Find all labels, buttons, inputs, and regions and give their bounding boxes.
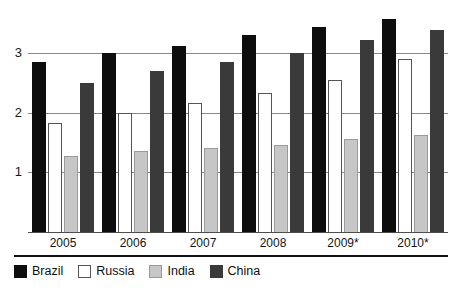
x-tick-label-2005: 2005 [28,236,98,250]
bar-russia-2009 [328,80,342,232]
bar-russia-2007 [188,103,202,232]
plot-area [28,8,448,232]
y-tick-label-3: 3 [0,46,22,59]
bar-india-2007 [204,148,218,232]
bar-china-2005 [80,83,94,232]
bar-india-2010 [414,135,428,232]
x-tick-label-2007: 2007 [168,236,238,250]
legend-swatch-russia-icon [78,265,91,278]
bar-china-2007 [220,62,234,232]
bar-russia-2008 [258,93,272,232]
y-tick-label-2: 2 [0,106,22,119]
bar-chart: 123 20052006200720082009*2010* BrazilRus… [0,0,466,292]
bar-group [308,8,378,232]
bar-china-2010 [430,30,444,232]
bar-group [238,8,308,232]
bar-groups [28,8,448,232]
legend-separator [14,255,448,257]
legend-item-india[interactable]: India [149,264,194,278]
bar-india-2009 [344,139,358,232]
bar-china-2009 [360,40,374,232]
x-tick-label-2008: 2008 [238,236,308,250]
bar-group [28,8,98,232]
bar-group [168,8,238,232]
y-axis: 123 [0,8,28,232]
bar-brazil-2005 [32,62,46,232]
bar-russia-2006 [118,113,132,232]
legend-label-china: China [228,264,261,278]
chart-legend: BrazilRussiaIndiaChina [14,264,268,278]
bar-group [98,8,168,232]
bar-russia-2010 [398,59,412,232]
legend-item-brazil[interactable]: Brazil [14,264,63,278]
x-tick-label-2009: 2009* [308,236,378,250]
bar-india-2008 [274,145,288,232]
bar-group [378,8,448,232]
bar-china-2008 [290,53,304,232]
legend-item-russia[interactable]: Russia [78,264,134,278]
legend-label-brazil: Brazil [32,264,63,278]
y-tick-label-1: 1 [0,165,22,178]
legend-label-russia: Russia [96,264,134,278]
bar-china-2006 [150,71,164,232]
legend-swatch-india-icon [149,265,162,278]
bar-india-2006 [134,151,148,232]
legend-swatch-china-icon [210,265,223,278]
bar-brazil-2009 [312,27,326,232]
bar-brazil-2007 [172,46,186,232]
bar-russia-2005 [48,123,62,232]
x-axis-line [28,232,448,233]
bar-brazil-2008 [242,35,256,232]
legend-swatch-brazil-icon [14,265,27,278]
x-tick-label-2006: 2006 [98,236,168,250]
x-axis-labels: 20052006200720082009*2010* [28,236,448,250]
x-tick-label-2010: 2010* [378,236,448,250]
legend-item-china[interactable]: China [210,264,261,278]
bar-brazil-2006 [102,53,116,232]
bar-brazil-2010 [382,19,396,232]
bar-india-2005 [64,156,78,232]
legend-label-india: India [167,264,194,278]
